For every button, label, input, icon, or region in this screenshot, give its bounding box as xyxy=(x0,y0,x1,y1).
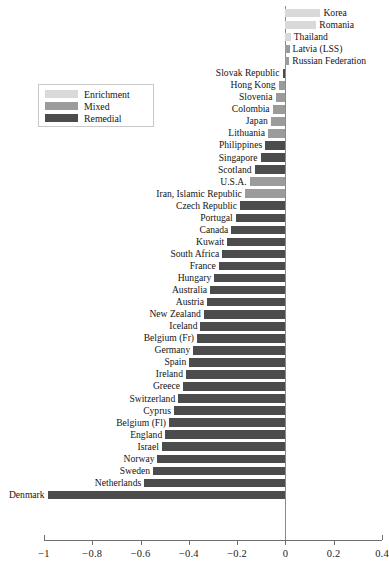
category-label: Thailand xyxy=(294,31,328,42)
category-label: Israel xyxy=(138,441,159,452)
bar xyxy=(193,346,285,355)
category-label: Sweden xyxy=(120,465,150,476)
bar-row: South Africa xyxy=(0,249,388,260)
category-label: Cyprus xyxy=(143,405,171,416)
bar xyxy=(276,93,286,102)
bar xyxy=(144,479,285,488)
bar xyxy=(265,141,285,150)
bar xyxy=(285,21,316,30)
category-label: Russian Federation xyxy=(292,55,366,66)
bar xyxy=(222,250,285,259)
bar-row: Netherlands xyxy=(0,477,388,488)
bar-row: Thailand xyxy=(0,32,388,43)
bar-row: Philippines xyxy=(0,140,388,151)
bar-row: Israel xyxy=(0,441,388,452)
x-axis-tick-label: 0 xyxy=(283,548,288,559)
bar xyxy=(48,491,286,500)
bar-row: Austria xyxy=(0,297,388,308)
bar xyxy=(197,334,285,343)
category-label: Colombia xyxy=(232,103,270,114)
bar xyxy=(283,69,286,78)
category-label: Korea xyxy=(323,7,346,18)
bar xyxy=(214,274,285,283)
bar xyxy=(204,310,286,319)
bar xyxy=(153,467,285,476)
x-axis-tick xyxy=(44,535,45,540)
bar xyxy=(273,105,286,114)
legend: Enrichment Mixed Remedial xyxy=(38,84,154,127)
legend-swatch-enrichment xyxy=(45,90,78,98)
x-axis-tick xyxy=(237,541,238,545)
x-axis-tick-label: −1 xyxy=(38,548,50,559)
category-label: Singapore xyxy=(219,152,258,163)
category-label: U.S.A. xyxy=(220,176,246,187)
bar-row: Lithuania xyxy=(0,128,388,139)
bar-row: Spain xyxy=(0,357,388,368)
bar-row: Czech Republic xyxy=(0,200,388,211)
x-axis-tick xyxy=(92,541,93,545)
bar xyxy=(231,226,285,235)
x-axis-tick-label: 0.4 xyxy=(375,548,389,559)
bar-row: Iceland xyxy=(0,321,388,332)
x-axis-tick xyxy=(334,541,335,545)
x-axis-tick xyxy=(285,541,286,545)
legend-label-remedial: Remedial xyxy=(84,113,122,124)
bar-row: Ireland xyxy=(0,369,388,380)
category-label: Switzerland xyxy=(129,393,175,404)
category-label: Belgium (Fr) xyxy=(144,332,194,343)
bar-row: Australia xyxy=(0,285,388,296)
bar-row: Slovak Republic xyxy=(0,68,388,79)
bar-row: Latvia (LSS) xyxy=(0,44,388,55)
bar xyxy=(227,238,285,247)
bar xyxy=(285,45,289,54)
bar xyxy=(186,370,285,379)
bar xyxy=(285,57,289,66)
category-label: Japan xyxy=(246,115,268,126)
bar xyxy=(200,322,285,331)
bar xyxy=(157,455,285,464)
legend-item-remedial: Remedial xyxy=(45,112,149,124)
category-label: Lithuania xyxy=(228,127,265,138)
category-label: Austria xyxy=(176,296,204,307)
category-label: Scotland xyxy=(218,164,252,175)
category-label: Romania xyxy=(319,19,354,30)
category-label: Iran, Islamic Republic xyxy=(156,188,242,199)
bar xyxy=(219,262,286,271)
bar-row: Russian Federation xyxy=(0,56,388,67)
bar xyxy=(189,358,285,367)
bar xyxy=(261,153,286,162)
bar xyxy=(183,382,285,391)
bar-row: Scotland xyxy=(0,164,388,175)
bar-row: Canada xyxy=(0,224,388,235)
category-label: Greece xyxy=(153,380,180,391)
x-axis-tick-label: −0.8 xyxy=(82,548,102,559)
bar-row: Iran, Islamic Republic xyxy=(0,188,388,199)
category-label: Kuwait xyxy=(196,236,224,247)
category-label: Belgium (Fl) xyxy=(116,417,166,428)
legend-swatch-mixed xyxy=(45,102,78,110)
bar xyxy=(162,442,286,451)
bar-row: Belgium (Fl) xyxy=(0,417,388,428)
category-label: England xyxy=(130,429,162,440)
bar-row: England xyxy=(0,429,388,440)
bar xyxy=(271,117,286,126)
bar-row: Hungary xyxy=(0,273,388,284)
category-label: Czech Republic xyxy=(176,200,237,211)
category-label: Norway xyxy=(124,453,155,464)
bar xyxy=(240,201,285,210)
x-axis-tick-label: −0.6 xyxy=(131,548,151,559)
category-label: Slovak Republic xyxy=(216,67,280,78)
legend-item-mixed: Mixed xyxy=(45,100,149,112)
bar-row: Korea xyxy=(0,8,388,19)
category-label: South Africa xyxy=(170,248,219,259)
bar xyxy=(245,189,286,198)
bar-row: Belgium (Fr) xyxy=(0,333,388,344)
bar xyxy=(236,214,286,223)
bar xyxy=(174,406,286,415)
category-label: Hungary xyxy=(178,272,212,283)
category-label: Philippines xyxy=(219,139,262,150)
bar-row: France xyxy=(0,261,388,272)
legend-item-enrichment: Enrichment xyxy=(45,88,149,100)
bar xyxy=(169,418,285,427)
